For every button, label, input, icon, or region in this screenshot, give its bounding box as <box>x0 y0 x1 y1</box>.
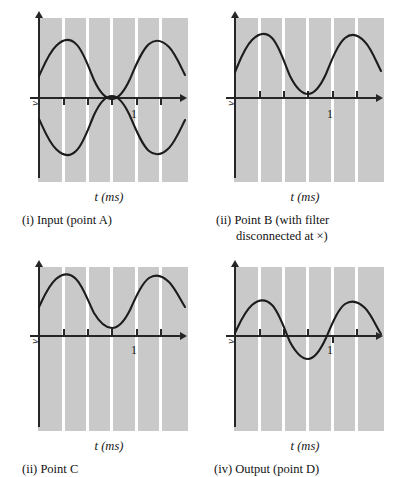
x-axis-title-unit: (ms) <box>297 190 319 204</box>
panel-caption-line: (i) Input (point A) <box>22 213 112 227</box>
panel-caption-i: (i) Input (point A) <box>22 212 200 228</box>
waveform-trace <box>30 263 188 431</box>
waveform-trace <box>226 14 384 182</box>
x-axis-title: t (ms) <box>226 439 384 454</box>
panel-caption-iv: (iv) Output (point D) <box>214 461 392 477</box>
x-axis-title: t (ms) <box>30 190 188 205</box>
plot-area-panel-iv: 1 v <box>226 263 384 431</box>
x-axis-title-symbol: t <box>291 190 294 204</box>
x-axis-title-unit: (ms) <box>297 439 319 453</box>
x-axis-title: t (ms) <box>226 190 384 205</box>
panel-caption-iii: (ii) Point C <box>22 461 200 477</box>
waveform-trace-lower <box>30 14 188 182</box>
panel-caption-line-2: disconnected at ×) <box>216 228 393 244</box>
x-axis-title-unit: (ms) <box>101 439 123 453</box>
panel-point-b: 1 v t (ms) (ii) Point B (with filter dis… <box>218 14 384 182</box>
panel-caption-line: (iv) Output (point D) <box>214 462 319 476</box>
panel-caption-line: (ii) Point B (with filter <box>216 213 329 227</box>
panel-input-point-a: 1 v t (ms) (i) Input (point A) <box>22 14 188 182</box>
panel-caption-ii: (ii) Point B (with filter disconnected a… <box>216 212 393 244</box>
x-axis-title-symbol: t <box>95 190 98 204</box>
panel-caption-line: (ii) Point C <box>22 462 78 476</box>
x-axis-title-symbol: t <box>95 439 98 453</box>
plot-area-panel-ii: 1 v <box>226 14 384 182</box>
waveform-trace <box>226 263 384 431</box>
x-axis-title-unit: (ms) <box>101 190 123 204</box>
x-axis-title-symbol: t <box>291 439 294 453</box>
panel-output-point-d: 1 v t (ms) (iv) Output (point D) <box>218 263 384 431</box>
x-axis-title: t (ms) <box>30 439 188 454</box>
plot-area-panel-iii: 1 v <box>30 263 188 431</box>
panel-point-c: 1 v t (ms) (ii) Point C <box>22 263 188 431</box>
plot-area-panel-i: 1 v <box>30 14 188 182</box>
